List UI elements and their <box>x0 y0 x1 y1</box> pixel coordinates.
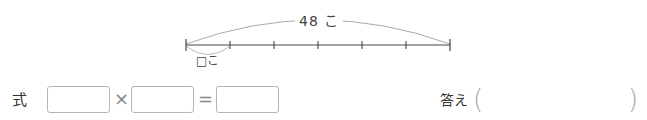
factor-2-input[interactable] <box>131 86 194 113</box>
answer-open-paren: ( <box>473 84 483 114</box>
answer-close-paren: ) <box>628 84 638 114</box>
answer-input[interactable] <box>490 86 626 113</box>
equals-sign: = <box>198 88 213 110</box>
unit-label: □こ <box>196 54 219 68</box>
product-input[interactable] <box>216 86 279 113</box>
equation-label: 式 <box>12 90 27 110</box>
factor-1-input[interactable] <box>47 86 110 113</box>
answer-label: 答え <box>440 90 468 110</box>
multiply-sign: × <box>114 88 129 110</box>
total-label: 48 こ <box>295 13 343 29</box>
